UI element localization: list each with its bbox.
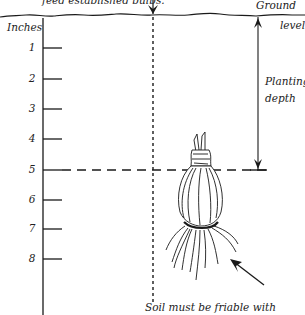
top-caption: feed established bulbs. <box>42 0 165 6</box>
bottom-caption: Soil must be friable with <box>145 302 276 313</box>
ruler-tick-label: 3 <box>25 103 39 114</box>
diagram-drawing <box>0 0 305 315</box>
ruler-tick-label: 4 <box>25 133 39 144</box>
ruler-tick-label: 7 <box>25 223 39 234</box>
inch-ruler <box>43 18 62 315</box>
ruler-tick-label: 8 <box>25 253 39 264</box>
planting-label: Planting <box>265 76 305 87</box>
ruler-tick-label: 2 <box>25 73 39 84</box>
ruler-tick-label: 6 <box>25 194 39 205</box>
ground-label: Ground <box>256 0 296 11</box>
ruler-tick-label: 5 <box>25 164 39 175</box>
ruler-tick-label: 1 <box>25 42 39 53</box>
bulb-planting-depth-diagram: feed established bulbs. Ground level Pla… <box>0 0 305 315</box>
depth-label: depth <box>265 93 296 104</box>
bulb-illustration <box>166 132 238 280</box>
ruler-unit-label: Inches <box>7 22 42 33</box>
soil-pointer-arrow-icon <box>230 259 264 285</box>
level-label: level <box>280 20 305 31</box>
